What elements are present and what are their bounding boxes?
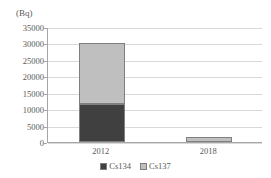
legend-item-cs134[interactable]: Cs134 [100,162,131,171]
legend-label: Cs134 [109,162,131,171]
x-axis-tick-label: 2012 [47,146,155,157]
bar-segment-cs134[interactable] [79,104,125,142]
chart-container: (Bq) 05000100001500020000250003000035000… [0,0,271,178]
gridline [48,143,262,144]
y-axis-tick-label: 35000 [0,24,44,33]
legend-label: Cs137 [149,162,171,171]
y-axis-tick-label: 0 [0,139,44,148]
y-axis-tick-label: 25000 [0,56,44,65]
chart-legend: Cs134Cs137 [0,162,271,171]
bars-layer [48,28,262,142]
y-axis-tick-mark [44,143,47,144]
x-axis-tick-label: 2018 [155,146,263,157]
y-axis-tick-label: 10000 [0,106,44,115]
bar-segment-cs137[interactable] [186,137,232,142]
x-axis-tick-labels: 20122018 [47,146,262,159]
legend-swatch-icon [100,163,107,170]
bar-group[interactable] [79,27,125,142]
y-axis-tick-labels: 05000100001500020000250003000035000 [0,28,44,143]
legend-item-cs137[interactable]: Cs137 [140,162,171,171]
y-axis-tick-label: 20000 [0,73,44,82]
y-axis-unit-label: (Bq) [16,8,33,18]
bar-segment-cs137[interactable] [79,43,125,104]
legend-swatch-icon [140,163,147,170]
y-axis-tick-label: 30000 [0,40,44,49]
y-axis-tick-label: 5000 [0,122,44,131]
bar-group[interactable] [186,27,232,142]
plot-area [47,28,262,143]
y-axis-tick-label: 15000 [0,89,44,98]
